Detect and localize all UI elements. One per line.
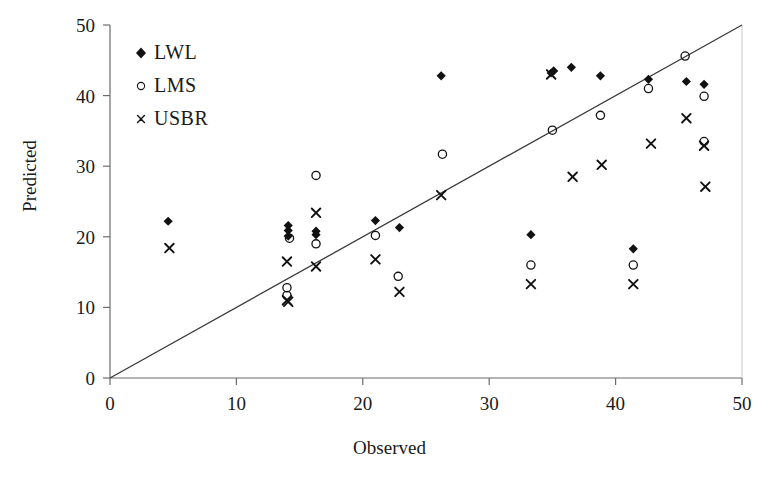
legend-label-lwl: LWL <box>154 41 197 64</box>
y-axis-label: Predicted <box>19 86 41 266</box>
point-cross-x <box>647 139 656 148</box>
point-open-circle <box>700 137 708 145</box>
x-tick-label: 0 <box>105 394 115 413</box>
point-filled-diamond <box>437 71 446 80</box>
point-cross-x <box>700 141 709 150</box>
point-open-circle <box>371 231 379 239</box>
point-filled-diamond <box>596 71 605 80</box>
point-filled-diamond <box>164 217 173 226</box>
point-open-circle <box>596 111 604 119</box>
point-open-circle <box>394 272 402 280</box>
x-tick-label: 30 <box>480 394 499 413</box>
point-cross-x <box>312 208 321 217</box>
point-cross-x <box>597 160 606 169</box>
legend-item-usbr: USBR <box>128 102 208 135</box>
point-filled-diamond <box>371 216 380 225</box>
point-open-circle <box>438 150 446 158</box>
point-open-circle <box>700 92 708 100</box>
point-filled-diamond <box>629 244 638 253</box>
y-tick-label: 50 <box>50 16 95 35</box>
point-filled-diamond <box>699 80 708 89</box>
legend-label-lms: LMS <box>154 74 197 97</box>
point-cross-x <box>527 280 536 289</box>
plot-canvas <box>0 0 779 485</box>
point-open-circle <box>629 261 637 269</box>
point-filled-diamond <box>682 77 691 86</box>
point-filled-diamond <box>395 223 404 232</box>
point-open-circle <box>312 240 320 248</box>
scatter-plot-figure: 0102030405001020304050 Observed Predicte… <box>0 0 779 485</box>
x-tick-label: 20 <box>353 394 372 413</box>
point-cross-x <box>371 255 380 264</box>
y-tick-label: 40 <box>50 86 95 105</box>
point-open-circle <box>312 171 320 179</box>
point-cross-x <box>283 257 292 266</box>
point-cross-x <box>682 114 691 123</box>
point-cross-x <box>395 288 404 297</box>
series-usbr <box>165 70 710 306</box>
legend: LWL LMS USBR <box>128 36 208 135</box>
filled-diamond-icon <box>128 46 154 60</box>
legend-label-usbr: USBR <box>154 107 208 130</box>
point-cross-x <box>568 172 577 181</box>
point-open-circle <box>283 284 291 292</box>
series-lwl <box>164 63 709 254</box>
legend-item-lms: LMS <box>128 69 208 102</box>
y-tick-label: 30 <box>50 157 95 176</box>
x-tick-label: 50 <box>733 394 752 413</box>
data-points-group <box>164 52 710 306</box>
point-open-circle <box>644 84 652 92</box>
point-filled-diamond <box>526 230 535 239</box>
legend-item-lwl: LWL <box>128 36 208 69</box>
point-cross-x <box>165 244 174 253</box>
point-cross-x <box>701 182 710 191</box>
cross-x-icon <box>128 112 154 126</box>
x-tick-label: 40 <box>606 394 625 413</box>
open-circle-icon <box>128 79 154 93</box>
x-tick-label: 10 <box>227 394 246 413</box>
series-lms <box>283 52 708 300</box>
point-filled-diamond <box>567 63 576 72</box>
point-open-circle <box>527 261 535 269</box>
y-tick-label: 0 <box>50 369 95 388</box>
y-tick-label: 10 <box>50 298 95 317</box>
y-tick-label: 20 <box>50 227 95 246</box>
x-axis-label: Observed <box>0 437 779 459</box>
point-cross-x <box>629 280 638 289</box>
